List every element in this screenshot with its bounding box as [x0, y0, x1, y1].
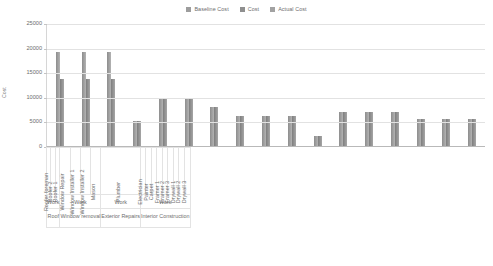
gridline — [47, 122, 485, 123]
category-label: Window Repair — [59, 173, 65, 210]
y-tick-mark — [44, 122, 47, 123]
plot-area — [46, 24, 485, 147]
bar-group — [150, 24, 176, 146]
bar-cost[interactable] — [369, 112, 373, 146]
y-tick-mark — [44, 98, 47, 99]
y-tick-label: 5000 — [16, 119, 42, 125]
y-axis-ticks: 2500020000150001000050000 — [12, 24, 42, 147]
y-tick-mark — [44, 73, 47, 74]
group-cell: Roof — [47, 209, 60, 228]
bar-group — [356, 24, 382, 146]
y-tick-label: 25000 — [16, 21, 42, 27]
bar-chart: Baseline Cost Cost Actual Cost Cost 2500… — [0, 0, 493, 266]
category-label: Window Installer 1 — [69, 170, 75, 215]
bar-group — [99, 24, 125, 146]
category-cell: Plumber — [101, 148, 141, 195]
gridline — [47, 98, 485, 99]
bar-group — [47, 24, 73, 146]
y-axis-title: Cost — [1, 87, 7, 98]
chart-legend: Baseline Cost Cost Actual Cost — [0, 6, 493, 12]
bar-group — [330, 24, 356, 146]
bar-cost[interactable] — [214, 107, 218, 146]
group-cell: Exterior Repairs — [101, 209, 141, 228]
bar-group — [433, 24, 459, 146]
legend-swatch-icon — [270, 7, 275, 12]
bar-group — [382, 24, 408, 146]
legend-swatch-icon — [186, 7, 191, 12]
legend-item-cost[interactable]: Cost — [240, 6, 259, 12]
category-axis-table: Roofer foremanRoofer 2Roofer 1Window Rep… — [46, 147, 191, 228]
category-cell: Window Installer 2 — [80, 148, 90, 195]
category-cell: Mason — [91, 148, 101, 195]
legend-swatch-icon — [240, 7, 245, 12]
bar-cost[interactable] — [240, 116, 244, 146]
category-label: Mason — [90, 184, 96, 200]
legend-label: Cost — [248, 6, 259, 12]
legend-label: Baseline Cost — [194, 6, 228, 12]
gridline — [47, 49, 485, 50]
category-label: Roofer 1 — [52, 181, 58, 202]
legend-item-baseline-cost[interactable]: Baseline Cost — [186, 6, 228, 12]
group-label: Interior Construction — [141, 209, 190, 220]
bar-cost[interactable] — [111, 79, 115, 146]
bar-group — [202, 24, 228, 146]
y-tick-label: 20000 — [16, 46, 42, 52]
bar-cost[interactable] — [318, 136, 322, 146]
bar-cost[interactable] — [292, 116, 296, 146]
category-label: Plumber — [115, 182, 121, 202]
bar-cost[interactable] — [395, 112, 399, 146]
gridline — [47, 24, 485, 25]
bar-cost[interactable] — [343, 112, 347, 146]
gridline — [47, 73, 485, 74]
bar-cost[interactable] — [60, 79, 64, 146]
bar-cost[interactable] — [137, 121, 141, 146]
legend-label: Actual Cost — [278, 6, 306, 12]
legend-item-actual-cost[interactable]: Actual Cost — [270, 6, 306, 12]
category-label: Drywall 3 — [181, 181, 187, 204]
bar-group — [227, 24, 253, 146]
bar-group — [176, 24, 202, 146]
bar-group — [124, 24, 150, 146]
y-tick-mark — [44, 49, 47, 50]
plot-area-wrapper: Cost 2500020000150001000050000 — [0, 24, 493, 150]
bar-group — [73, 24, 99, 146]
bar-cost[interactable] — [266, 116, 270, 146]
bar-cost[interactable] — [86, 79, 90, 146]
y-tick-label: 10000 — [16, 95, 42, 101]
bar-group — [279, 24, 305, 146]
bar-group — [253, 24, 279, 146]
category-label-row: Roofer foremanRoofer 2Roofer 1Window Rep… — [47, 148, 191, 195]
y-tick-label: 0 — [16, 144, 42, 150]
group-label: Exterior Repairs — [101, 209, 140, 220]
y-tick-label: 15000 — [16, 70, 42, 76]
y-tick-mark — [44, 24, 47, 25]
group-cell: Interior Construction — [140, 209, 190, 228]
category-cell: Drywall 3 — [184, 148, 190, 195]
bar-group — [305, 24, 331, 146]
bar-series-container — [47, 24, 485, 146]
bar-group — [408, 24, 434, 146]
bar-group — [459, 24, 485, 146]
category-label: Window Installer 2 — [79, 170, 85, 215]
